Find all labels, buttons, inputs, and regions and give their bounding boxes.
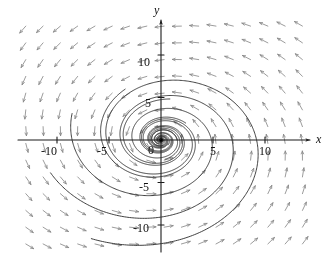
y-tick-label-pos10: 10 bbox=[138, 56, 150, 68]
x-tick-label-neg10: -10 bbox=[41, 145, 57, 157]
x-axis-label: x bbox=[316, 133, 321, 145]
y-tick-label-neg10: -10 bbox=[133, 222, 149, 234]
origin-label: 0 bbox=[148, 144, 154, 156]
x-tick-label-pos5: 5 bbox=[210, 145, 216, 157]
x-tick-label-neg5: -5 bbox=[97, 145, 107, 157]
figure-container: y x -10 -5 5 10 10 5 -5 -10 0 bbox=[0, 0, 331, 271]
y-tick-label-neg5: -5 bbox=[139, 181, 149, 193]
y-axis-label: y bbox=[154, 4, 159, 16]
x-tick-label-pos10: 10 bbox=[259, 145, 271, 157]
phase-portrait-canvas bbox=[0, 0, 331, 271]
y-tick-label-pos5: 5 bbox=[145, 97, 151, 109]
